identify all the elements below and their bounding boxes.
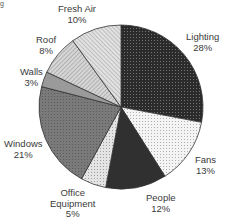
label-windows-pct: 21% [4, 150, 43, 161]
label-roof: Roof 8% [36, 35, 56, 56]
label-fans-pct: 13% [195, 166, 216, 177]
label-lighting-name: Lighting [186, 32, 219, 43]
label-lighting-pct: 28% [186, 43, 219, 54]
label-people: People 12% [146, 193, 176, 214]
label-fresh-air-name: Fresh Air [58, 4, 96, 15]
label-walls: Walls 3% [20, 67, 43, 88]
label-fans: Fans 13% [195, 155, 216, 176]
label-roof-name: Roof [36, 35, 56, 46]
label-roof-pct: 8% [36, 46, 56, 57]
label-fresh-air-pct: 10% [58, 15, 96, 26]
label-office-equipment: Office Equipment 5% [50, 188, 95, 220]
label-windows: Windows 21% [4, 139, 43, 160]
label-office-name1: Office [50, 188, 95, 199]
label-fresh-air: Fresh Air 10% [58, 4, 96, 25]
label-office-pct: 5% [50, 209, 95, 220]
label-people-name: People [146, 193, 176, 204]
label-walls-pct: 3% [20, 78, 43, 89]
label-walls-name: Walls [20, 67, 43, 78]
label-lighting: Lighting 28% [186, 32, 219, 53]
label-fans-name: Fans [195, 155, 216, 166]
label-windows-name: Windows [4, 139, 43, 150]
label-people-pct: 12% [146, 204, 176, 215]
